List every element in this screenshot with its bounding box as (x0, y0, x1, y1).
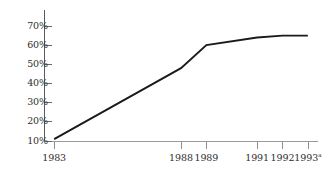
line-chart: 70%60%50%40%30%20%10% 198319881989199119… (0, 0, 324, 174)
data-series-line (54, 36, 308, 140)
plot-area (0, 0, 324, 174)
